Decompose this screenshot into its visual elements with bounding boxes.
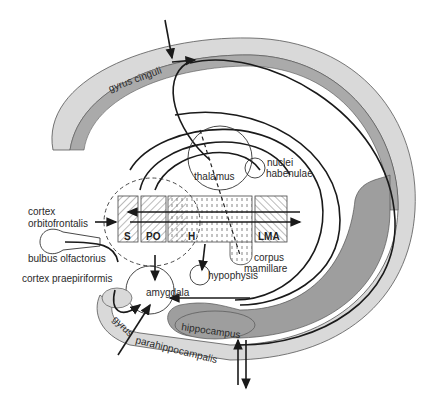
box-label-PO: PO [146, 231, 161, 242]
box-label-LMA: LMA [258, 231, 280, 242]
cortex-praepiriformis-shape [102, 288, 132, 308]
label-nuclei: nuclei [267, 157, 293, 168]
label-cortex-praepiriformis: cortex praepiriformis [22, 273, 113, 284]
hypophysis-circle [190, 265, 210, 285]
label-corpus: corpus [254, 252, 284, 263]
label-mamillare: mamillare [244, 263, 288, 274]
label-thalamus: thalamus [194, 171, 235, 182]
corpus-mamillare-shape [230, 242, 252, 265]
label-habenulae: habenulae [266, 168, 313, 179]
nuclei-habenulae-circle [245, 158, 265, 178]
label-cortex: cortex [28, 206, 55, 217]
label-orbitofrontalis: orbitofrontalis [28, 218, 88, 229]
label-bulbus-olfactorius: bulbus olfactorius [28, 253, 106, 264]
limbic-system-diagram: gyrus cinguli thalamus nuclei habenulae … [0, 0, 435, 411]
box-label-H: H [188, 231, 195, 242]
box-label-S: S [124, 231, 131, 242]
label-amygdala: amygdala [146, 287, 190, 298]
